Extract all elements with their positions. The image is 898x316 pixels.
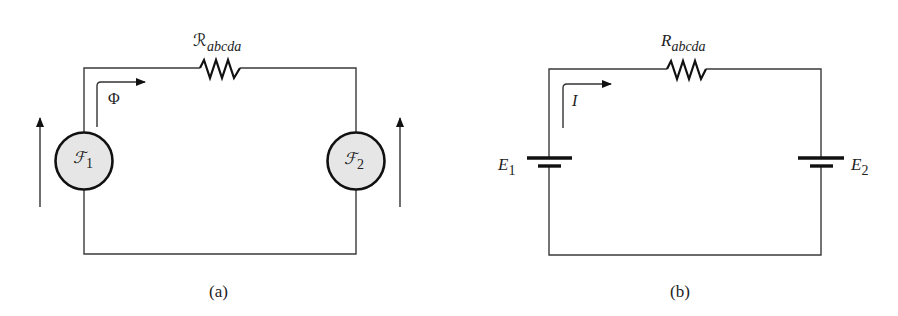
panel-b-caption: (b) (670, 282, 690, 301)
battery-2-label: E2 (850, 155, 868, 178)
flux-label: Φ (108, 90, 120, 107)
panel-a-caption: (a) (209, 282, 228, 301)
battery-1: E1 (497, 155, 572, 178)
panel-a-loop-wire (84, 68, 356, 254)
mmf-source-2: ℱ2 (328, 133, 385, 190)
diagram-canvas: ℛabcda Φ ℱ1 ℱ2 (a) Rabcda (0, 0, 898, 316)
panel-a-magnetic-circuit: ℛabcda Φ ℱ1 ℱ2 (a) (40, 31, 400, 301)
reluctance-resistor-icon (200, 60, 240, 78)
battery-1-label: E1 (497, 155, 515, 178)
resistor-icon (667, 61, 706, 79)
panel-b-loop-wire (549, 69, 821, 255)
current-arrow-icon (563, 84, 611, 128)
battery-2: E2 (798, 155, 868, 178)
mmf-source-1: ℱ1 (56, 133, 113, 190)
reluctance-label: ℛabcda (193, 31, 241, 54)
flux-arrow-icon (97, 82, 145, 127)
resistor-label: Rabcda (660, 31, 706, 54)
panel-b-electric-circuit: Rabcda I E1 E2 (b) (497, 31, 868, 301)
current-label: I (571, 92, 578, 109)
